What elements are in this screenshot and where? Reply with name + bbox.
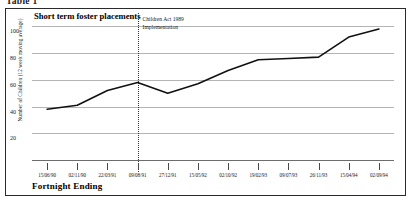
x-axis-tick-label: 15/05/92 <box>189 172 207 178</box>
x-axis-tick-label: 27/12/91 <box>159 172 177 178</box>
x-axis-tick <box>47 163 48 170</box>
x-axis-tick-label: 19/02/93 <box>249 172 267 178</box>
x-axis-tick <box>168 163 169 170</box>
x-axis-line <box>32 160 394 161</box>
y-axis-tick-label: 60 <box>10 82 30 88</box>
x-axis-tick-label: 09/07/93 <box>280 172 298 178</box>
x-axis-tick-label: 15/06/90 <box>38 172 56 178</box>
y-axis-title: Number of Children (12 week moving avera… <box>17 0 23 140</box>
x-axis-tick <box>228 163 229 170</box>
y-axis-tick-label: 80 <box>10 55 30 61</box>
x-axis-tick <box>288 163 289 170</box>
y-axis-tick-label: 40 <box>10 109 30 115</box>
x-axis-tick <box>319 163 320 170</box>
x-axis-title: Fortnight Ending <box>32 181 102 191</box>
x-axis-tick-label: 02/09/94 <box>370 172 388 178</box>
x-axis-tick <box>138 163 139 170</box>
x-axis-tick-label: 26/11/93 <box>310 172 328 178</box>
x-axis-tick <box>198 163 199 170</box>
x-axis-tick-label: 09/08/91 <box>129 172 147 178</box>
x-axis-tick <box>379 163 380 170</box>
x-axis-tick <box>258 163 259 170</box>
x-axis-tick-label: 02/11/90 <box>68 172 86 178</box>
y-axis-tick-label: 100 <box>10 28 30 34</box>
x-axis-tick <box>107 163 108 170</box>
figure-root: Table 1 Number of Children (12 week movi… <box>0 0 413 202</box>
x-axis-tick <box>77 163 78 170</box>
y-axis-tick-label: 20 <box>10 135 30 141</box>
x-axis-tick-label: 02/10/92 <box>219 172 237 178</box>
x-axis-tick <box>349 163 350 170</box>
data-series-line <box>32 13 394 160</box>
x-axis-tick-label: 15/04/94 <box>340 172 358 178</box>
x-axis-tick-label: 22/03/91 <box>99 172 117 178</box>
chart-frame: Number of Children (12 week moving avera… <box>5 8 406 196</box>
plot-area: Short term foster placements 20406080100… <box>32 13 394 160</box>
